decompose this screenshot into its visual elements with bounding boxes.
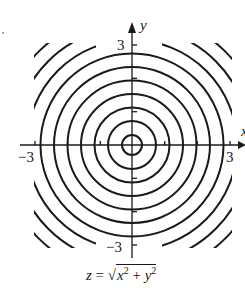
radical-sign: √ [108, 267, 116, 283]
function-caption: z = √x2 + y2 [86, 264, 156, 284]
y-tick-label-neg: −3 [106, 240, 122, 255]
x-axis-label: x [241, 124, 245, 139]
x-tick-label-pos: 3 [226, 150, 234, 165]
radicand: x2 + y2 [116, 264, 156, 284]
caption-equals: = [92, 267, 108, 283]
y-tick-label-pos: 3 [117, 38, 125, 53]
stray-dot [2, 32, 4, 34]
y-axis-label: y [140, 18, 147, 33]
y-axis-arrow-icon [128, 22, 136, 33]
x-tick-label-neg: −3 [18, 150, 34, 165]
